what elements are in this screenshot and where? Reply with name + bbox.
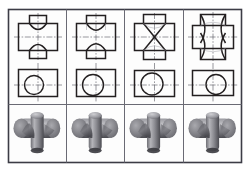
cylinder-intersection-plate — [0, 0, 250, 170]
figure-plate — [0, 0, 250, 170]
